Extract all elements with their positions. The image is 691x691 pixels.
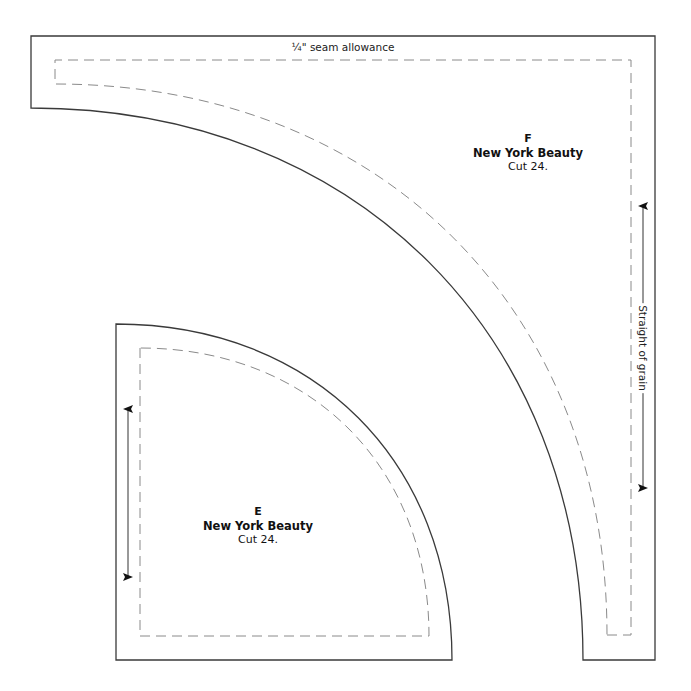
- template-canvas: [0, 0, 691, 691]
- piece-e-name: New York Beauty: [203, 519, 313, 533]
- piece-e: [116, 324, 452, 660]
- piece-e-cut-count: Cut 24.: [203, 533, 313, 547]
- piece-f-cut-line: [31, 36, 655, 660]
- seam-allowance-label: ¼" seam allowance: [292, 41, 395, 53]
- piece-e-label: E New York Beauty Cut 24.: [203, 505, 313, 547]
- piece-e-cut-line: [116, 324, 452, 660]
- grain-label: Straight of grain: [637, 303, 649, 393]
- piece-e-seam-line: [140, 348, 429, 636]
- piece-f-label: F New York Beauty Cut 24.: [473, 132, 583, 174]
- piece-f-cut-count: Cut 24.: [473, 160, 583, 174]
- piece-f-letter: F: [473, 132, 583, 146]
- piece-f-name: New York Beauty: [473, 146, 583, 160]
- piece-e-letter: E: [203, 505, 313, 519]
- piece-f: [31, 36, 655, 660]
